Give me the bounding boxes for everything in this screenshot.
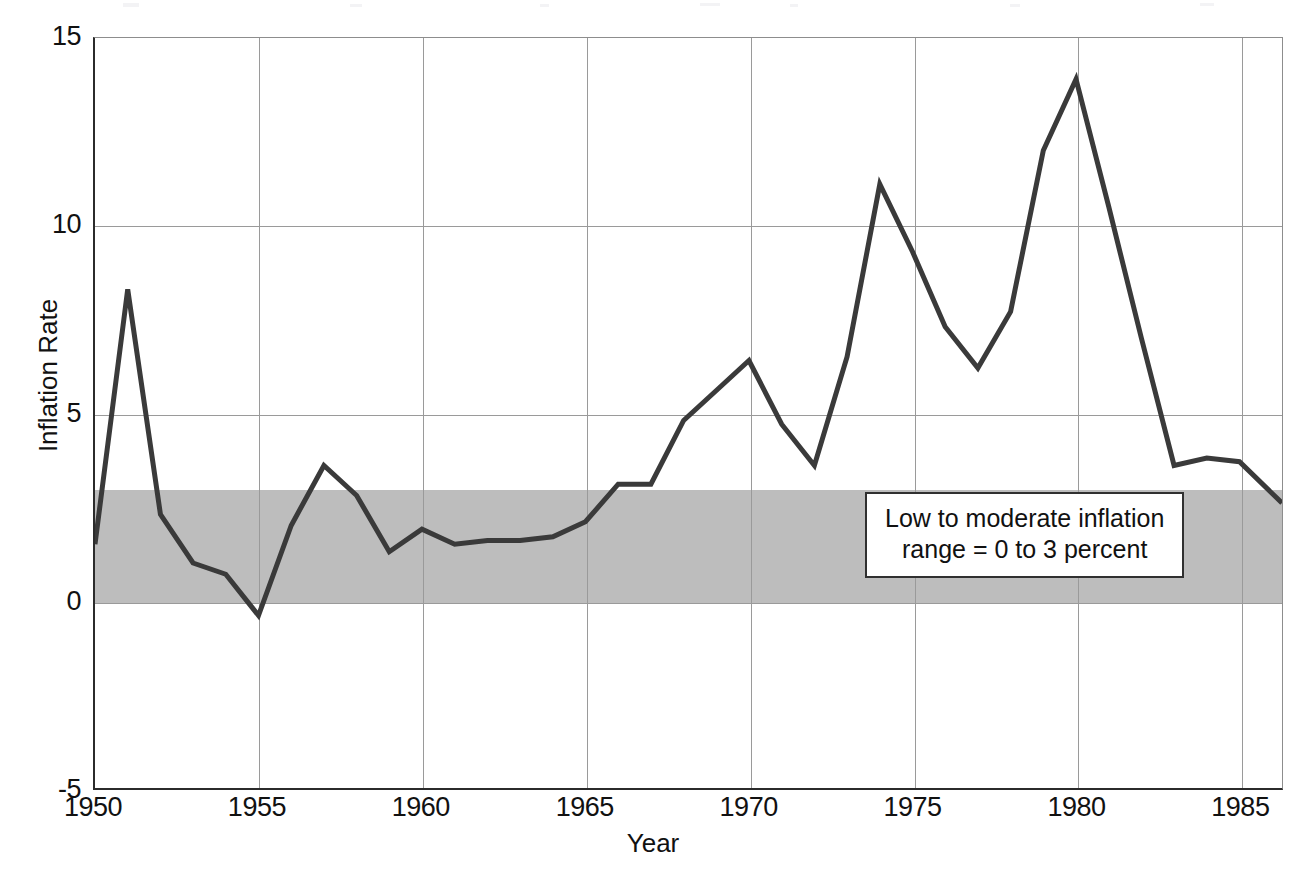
x-tick-label: 1950: [33, 794, 153, 821]
scan-artifact: [540, 4, 549, 7]
y-axis-title: Inflation Rate: [33, 266, 64, 486]
scan-artifact: [1200, 3, 1214, 6]
annotation-low-moderate-inflation: Low to moderate inflation range = 0 to 3…: [865, 492, 1184, 578]
x-tick-label: 1965: [525, 794, 645, 821]
x-tick-label: 1960: [361, 794, 481, 821]
x-tick-label: 1970: [689, 794, 809, 821]
inflation-rate-line-chart: 151050-5 1950195519601965197019751980198…: [0, 0, 1306, 873]
scan-artifact: [350, 4, 362, 7]
scan-artifact: [790, 4, 798, 7]
x-axis-title: Year: [0, 828, 1306, 859]
x-tick-label: 1985: [1180, 794, 1300, 821]
y-tick-label: 15: [1, 23, 81, 50]
scan-artifact: [1010, 4, 1020, 7]
x-tick-label: 1955: [197, 794, 317, 821]
y-tick-label: 10: [1, 211, 81, 238]
x-tick-label: 1975: [853, 794, 973, 821]
plot-area: [93, 37, 1283, 790]
scan-artifact: [123, 3, 139, 7]
scan-artifact: [700, 3, 720, 6]
inflation-rate-series: [95, 38, 1282, 788]
annotation-line-1: Low to moderate inflation: [885, 503, 1164, 534]
x-tick-label: 1980: [1016, 794, 1136, 821]
y-tick-label: 0: [1, 588, 81, 615]
annotation-line-2: range = 0 to 3 percent: [885, 534, 1164, 565]
